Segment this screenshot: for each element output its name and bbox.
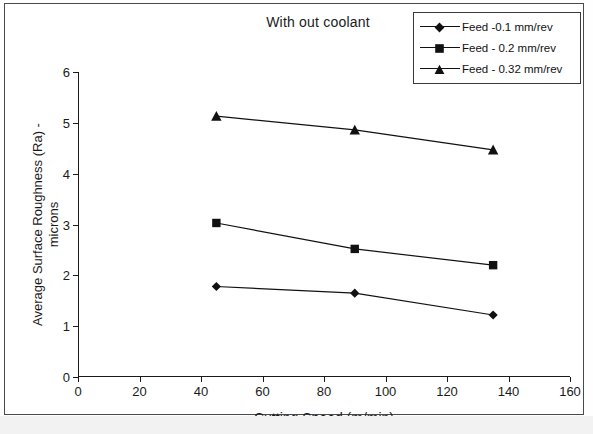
x-tick-label: 80 xyxy=(317,384,331,399)
x-tick xyxy=(447,377,448,382)
chart-title: With out coolant xyxy=(223,14,413,30)
x-tick xyxy=(570,377,571,382)
series-layer xyxy=(78,72,570,377)
x-tick xyxy=(78,377,79,382)
legend-marker-square-icon xyxy=(418,41,462,55)
y-tick-label: 4 xyxy=(63,166,70,181)
data-point-marker xyxy=(211,111,221,121)
x-tick xyxy=(386,377,387,382)
legend-label-feed-0-1: Feed -0.1 mm/rev xyxy=(462,21,553,33)
legend-item-feed-0-2: Feed - 0.2 mm/rev xyxy=(418,37,576,58)
y-tick-label: 1 xyxy=(63,319,70,334)
data-point-marker xyxy=(350,289,359,298)
y-axis-title: Average Surface Roughness (Ra) - microns xyxy=(30,72,60,377)
data-point-marker xyxy=(351,245,359,253)
x-tick-label: 20 xyxy=(132,384,146,399)
y-tick-label: 2 xyxy=(63,268,70,283)
x-tick xyxy=(140,377,141,382)
diamond-icon xyxy=(434,22,445,33)
chart-screenshot: With out coolant Feed -0.1 mm/rev xyxy=(0,0,593,434)
legend-label-feed-0-2: Feed - 0.2 mm/rev xyxy=(462,42,556,54)
data-point-marker xyxy=(489,310,498,319)
x-tick xyxy=(324,377,325,382)
x-tick-label: 100 xyxy=(375,384,397,399)
x-tick xyxy=(263,377,264,382)
x-tick-label: 160 xyxy=(559,384,581,399)
data-point-marker xyxy=(212,219,220,227)
x-tick-label: 40 xyxy=(194,384,208,399)
y-tick-label: 0 xyxy=(63,370,70,385)
data-point-marker xyxy=(212,282,221,291)
series-line-1 xyxy=(216,223,493,265)
x-tick-label: 120 xyxy=(436,384,458,399)
page-bottom-strip xyxy=(0,416,593,434)
plot-area: 0123456 020406080100120140160 Average Su… xyxy=(78,72,570,377)
y-axis-title-line2: microns xyxy=(46,202,61,248)
legend-item-feed-0-1: Feed -0.1 mm/rev xyxy=(418,16,576,37)
square-icon xyxy=(434,43,445,54)
x-tick-label: 140 xyxy=(498,384,520,399)
data-point-marker xyxy=(489,261,497,269)
y-tick-label: 5 xyxy=(63,115,70,130)
y-tick-label: 6 xyxy=(63,65,70,80)
x-tick xyxy=(509,377,510,382)
x-tick xyxy=(201,377,202,382)
legend-marker-diamond-icon xyxy=(418,20,462,34)
x-tick-label: 60 xyxy=(255,384,269,399)
y-tick-label: 3 xyxy=(63,217,70,232)
chart-frame: With out coolant Feed -0.1 mm/rev xyxy=(4,3,584,415)
x-tick-label: 0 xyxy=(74,384,81,399)
y-axis-title-line1: Average Surface Roughness (Ra) - xyxy=(30,123,45,326)
